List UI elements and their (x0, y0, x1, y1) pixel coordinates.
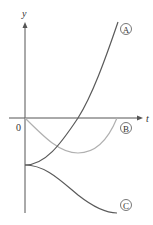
label-c: C (121, 200, 132, 211)
origin-label: 0 (16, 122, 21, 133)
y-axis-label: y (21, 8, 27, 19)
svg-text:C: C (123, 201, 129, 211)
curve-b (25, 118, 117, 153)
y-axis-arrow-icon (23, 22, 28, 28)
graph-canvas: t y 0 A B C (0, 0, 153, 225)
svg-text:A: A (123, 25, 130, 35)
curve-a (25, 22, 118, 165)
svg-text:B: B (123, 124, 129, 134)
t-axis-label: t (146, 113, 149, 124)
motion-graph: t y 0 A B C (0, 0, 153, 225)
curve-c (25, 165, 117, 213)
t-axis-arrow-icon (137, 116, 143, 121)
label-a: A (121, 24, 132, 35)
label-b: B (121, 123, 132, 134)
